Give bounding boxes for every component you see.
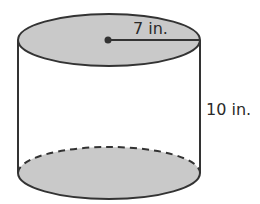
center-point <box>105 37 112 44</box>
cylinder-diagram: 7 in. 10 in. <box>0 0 260 204</box>
radius-label: 7 in. <box>133 19 168 38</box>
height-label: 10 in. <box>206 100 251 119</box>
